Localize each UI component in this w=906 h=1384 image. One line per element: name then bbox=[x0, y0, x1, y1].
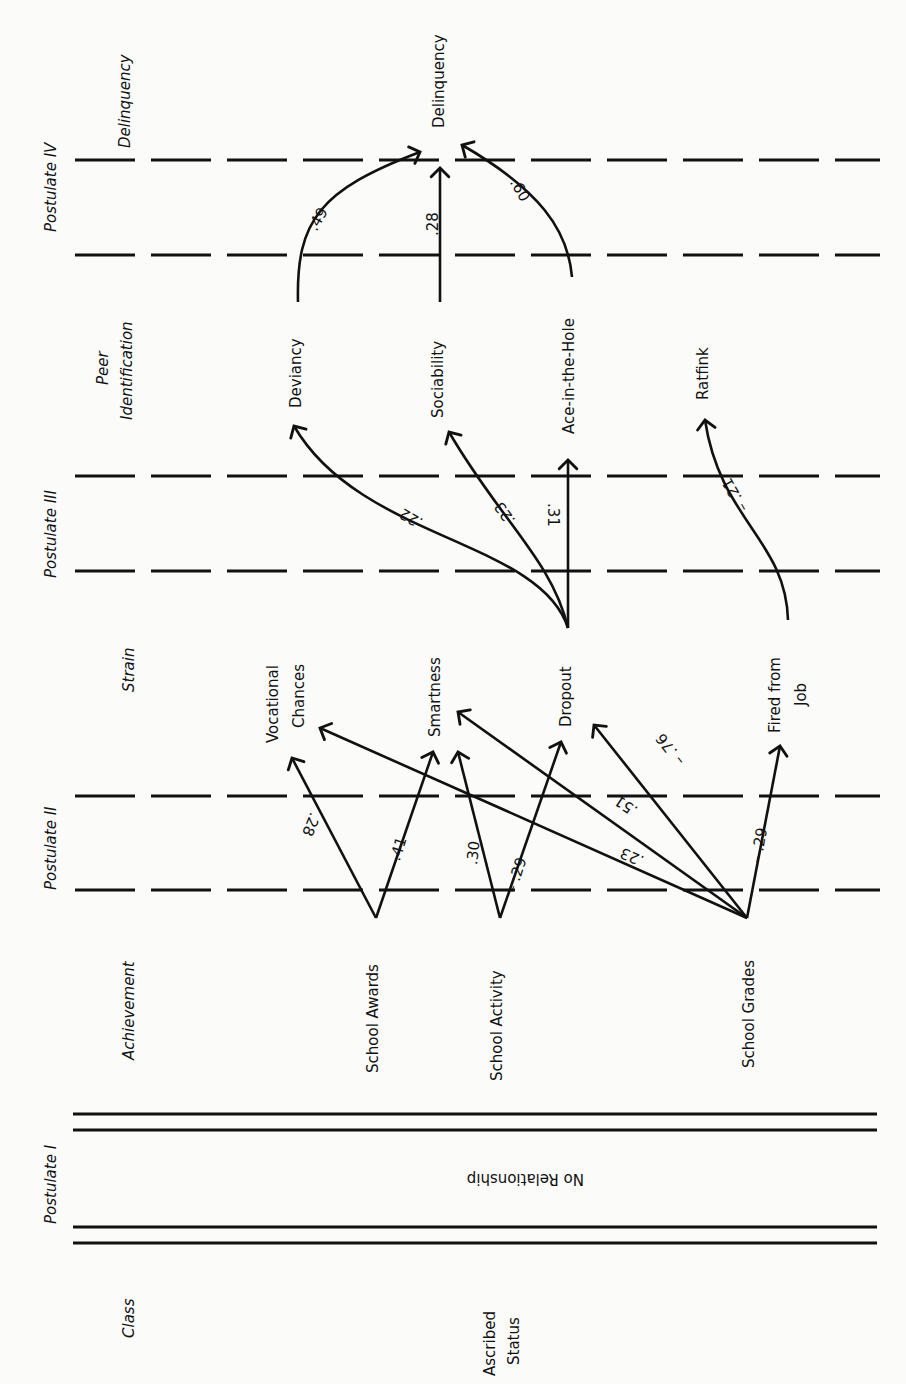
node-school-awards: School Awards bbox=[366, 964, 381, 1073]
postulate-ii-label: Postulate II bbox=[44, 806, 59, 890]
node-ascribed-status-2: Status bbox=[507, 1317, 522, 1365]
node-vocational-chances-2: Chances bbox=[292, 664, 307, 728]
stage-peer-identification-1: Peer bbox=[96, 351, 111, 385]
coef-dropout-ace: .31 bbox=[545, 503, 560, 527]
node-school-grades: School Grades bbox=[742, 960, 757, 1068]
arrow-dropout-deviancy bbox=[294, 426, 568, 628]
node-deviancy: Deviancy bbox=[289, 338, 304, 408]
postulate-iv-lines bbox=[75, 160, 880, 255]
postulate-iii-lines bbox=[75, 476, 880, 571]
arrow-awards-smartness bbox=[376, 752, 433, 918]
arrow-grades-smartness bbox=[458, 712, 747, 918]
node-school-activity: School Activity bbox=[490, 970, 505, 1081]
node-smartness: Smartness bbox=[428, 657, 443, 737]
arrow-activity-smartness bbox=[458, 752, 500, 918]
postulate-iii-label: Postulate III bbox=[44, 490, 59, 578]
coef-activity-smartness: .30 bbox=[465, 840, 482, 865]
postulate-i-label: Postulate I bbox=[44, 1145, 59, 1224]
no-relationship-label: No Relationship bbox=[467, 1171, 584, 1186]
stage-peer-identification-2: Identification bbox=[120, 321, 135, 420]
arrow-fired-ratfink bbox=[705, 420, 788, 620]
stage-delinquency: Delinquency bbox=[118, 54, 133, 148]
node-ascribed-status-1: Ascribed bbox=[483, 1311, 498, 1376]
coef-sociability-delinquency: .28 bbox=[426, 212, 441, 236]
arrow-ace-delinquency bbox=[462, 145, 572, 277]
arrow-awards-vocational bbox=[292, 758, 376, 918]
node-ratfink: Ratfink bbox=[696, 347, 711, 400]
stage-achievement: Achievement bbox=[122, 961, 137, 1060]
node-sociability: Sociability bbox=[431, 341, 446, 418]
postulate-iv-label: Postulate IV bbox=[44, 143, 59, 232]
node-ace-in-the-hole: Ace-in-the-Hole bbox=[562, 318, 577, 434]
node-dropout: Dropout bbox=[559, 666, 574, 727]
node-fired-from-job-1: Fired from bbox=[768, 657, 783, 733]
node-delinquency: Delinquency bbox=[432, 34, 447, 128]
stage-strain: Strain bbox=[122, 648, 137, 692]
node-vocational-chances-1: Vocational bbox=[266, 665, 281, 743]
stage-class: Class bbox=[122, 1299, 137, 1338]
node-fired-from-job-2: Job bbox=[794, 683, 809, 706]
